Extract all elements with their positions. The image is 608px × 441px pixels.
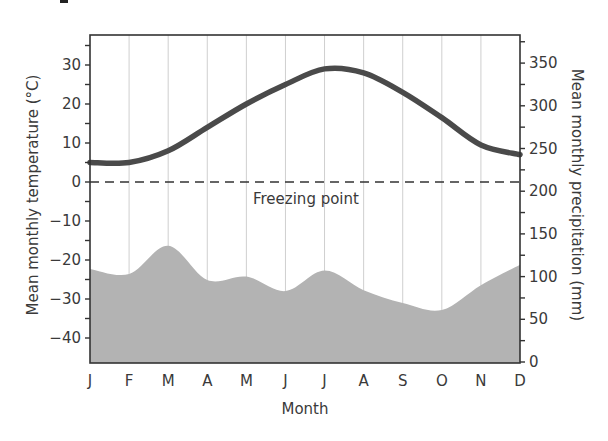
svg-text:300: 300 bbox=[529, 97, 558, 115]
svg-text:N: N bbox=[475, 372, 486, 390]
freezing-point-label: Freezing point bbox=[253, 190, 359, 208]
svg-text:M: M bbox=[240, 372, 253, 390]
svg-text:A: A bbox=[202, 372, 213, 390]
svg-text:20: 20 bbox=[62, 95, 81, 113]
svg-text:J: J bbox=[87, 372, 92, 390]
left-axis-ticks: 3020100−10−20−30−40 bbox=[49, 46, 90, 348]
svg-text:0: 0 bbox=[71, 173, 81, 191]
svg-text:−40: −40 bbox=[49, 329, 81, 347]
svg-text:10: 10 bbox=[62, 134, 81, 152]
svg-text:O: O bbox=[436, 372, 448, 390]
right-axis-title: Mean monthly precipitation (mm) bbox=[568, 69, 586, 321]
x-axis-title: Month bbox=[281, 400, 328, 418]
precipitation-area bbox=[90, 246, 520, 363]
svg-text:100: 100 bbox=[529, 268, 558, 286]
svg-text:50: 50 bbox=[529, 310, 548, 328]
svg-text:A: A bbox=[359, 372, 370, 390]
svg-text:M: M bbox=[162, 372, 175, 390]
svg-text:30: 30 bbox=[62, 56, 81, 74]
svg-text:250: 250 bbox=[529, 140, 558, 158]
svg-text:−20: −20 bbox=[49, 251, 81, 269]
svg-text:−30: −30 bbox=[49, 290, 81, 308]
svg-text:J: J bbox=[282, 372, 287, 390]
svg-text:−10: −10 bbox=[49, 212, 81, 230]
svg-text:350: 350 bbox=[529, 54, 558, 72]
x-axis-month-labels: JFMAMJJASOND bbox=[87, 372, 526, 390]
left-axis-title: Mean monthly temperature (°C) bbox=[24, 75, 42, 316]
svg-text:S: S bbox=[398, 372, 408, 390]
right-axis-ticks: 350300250200150100500 bbox=[520, 42, 558, 371]
svg-text:200: 200 bbox=[529, 182, 558, 200]
svg-text:J: J bbox=[321, 372, 326, 390]
svg-text:D: D bbox=[514, 372, 526, 390]
svg-text:0: 0 bbox=[529, 353, 539, 371]
temperature-line bbox=[90, 68, 520, 163]
climate-chart: Freezing point 3020100−10−20−30−40 35030… bbox=[0, 0, 608, 441]
svg-text:150: 150 bbox=[529, 225, 558, 243]
svg-text:F: F bbox=[125, 372, 134, 390]
